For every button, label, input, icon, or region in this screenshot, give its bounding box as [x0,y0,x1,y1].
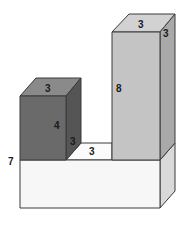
base-front-face [20,160,160,208]
label-base-height: 7 [8,156,14,167]
tall-block-front [112,32,160,160]
label-dark-depth: 3 [70,136,76,147]
label-dark-height: 4 [54,120,60,131]
block-solid-diagram: 7 3 4 3 3 8 3 3 [0,0,186,227]
label-tall-top-width: 3 [138,19,144,30]
label-gap-width: 3 [89,146,95,157]
label-dark-top-width: 3 [45,83,51,94]
label-tall-depth: 3 [163,28,169,39]
label-tall-height: 8 [116,83,122,94]
